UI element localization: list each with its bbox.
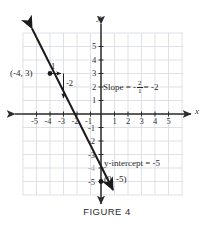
- slope-denominator: 1: [137, 87, 143, 95]
- coordinate-plane: x y -5 -4 -3 -2 -1 1 2 3 4 5 5 4 3 2 1 -…: [0, 0, 214, 214]
- y-tick-3: 3: [92, 69, 96, 78]
- y-tick-5: 5: [92, 42, 96, 51]
- slope-annotation: Slope = -21= -2: [103, 80, 158, 96]
- x-tick-3: 3: [140, 117, 144, 126]
- x-tick--5: -5: [31, 117, 38, 126]
- y-tick--5: -5: [88, 178, 95, 187]
- slope-prefix: Slope = -: [103, 82, 136, 92]
- x-tick--4: -4: [45, 117, 52, 126]
- y-axis-label: y: [97, 13, 101, 22]
- y-tick-4: 4: [92, 56, 96, 65]
- slope-result: = -2: [144, 82, 159, 92]
- y-intercept-annotation: y-intercept = -5: [104, 159, 160, 168]
- y-tick-2: 2: [92, 83, 96, 92]
- figure-container: x y -5 -4 -3 -2 -1 1 2 3 4 5 5 4 3 2 1 -…: [0, 0, 214, 234]
- slope-fraction: 21: [137, 80, 143, 96]
- y-tick-1: 1: [92, 96, 96, 105]
- y-tick--4: -4: [88, 164, 95, 173]
- run-label: 1: [51, 62, 55, 71]
- y-tick--1: -1: [88, 124, 95, 133]
- x-tick-1: 1: [113, 117, 117, 126]
- x-axis-label: x: [195, 107, 199, 116]
- slope-numerator: 2: [137, 80, 143, 87]
- intercept-point-label: (0, -5): [104, 175, 127, 184]
- x-tick-4: 4: [153, 117, 157, 126]
- x-tick-5: 5: [167, 117, 171, 126]
- x-tick--2: -2: [72, 117, 79, 126]
- x-tick--3: -3: [58, 117, 65, 126]
- y-tick--2: -2: [88, 137, 95, 146]
- y-tick--3: -3: [88, 151, 95, 160]
- point-label-neg4-3: (-4, 3): [10, 69, 33, 78]
- x-tick-2: 2: [126, 117, 130, 126]
- rise-label: -2: [66, 79, 73, 88]
- figure-caption: FIGURE 4: [0, 206, 214, 217]
